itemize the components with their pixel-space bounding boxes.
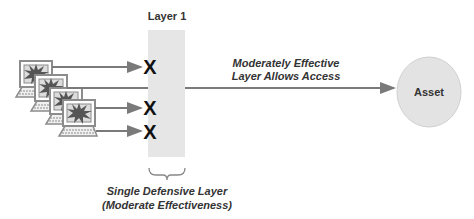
layer-caption-line-2: (Moderate Effectiveness) (102, 199, 232, 211)
layer-label: Layer 1 (148, 10, 187, 22)
block-mark-1: X (143, 56, 157, 78)
layer-caption-line-1: Single Defensive Layer (107, 185, 228, 197)
block-mark-3: X (143, 97, 157, 119)
access-label-line-1: Moderately Effective (233, 57, 340, 69)
diagram-canvas: Layer 1 X X X Moderately Effective Layer… (0, 0, 474, 219)
block-mark-4: X (143, 121, 157, 143)
access-label-line-2: Layer Allows Access (232, 70, 341, 82)
layer-brace (149, 168, 185, 180)
attacker-computer-4 (59, 100, 97, 136)
asset-label: Asset (414, 86, 444, 98)
